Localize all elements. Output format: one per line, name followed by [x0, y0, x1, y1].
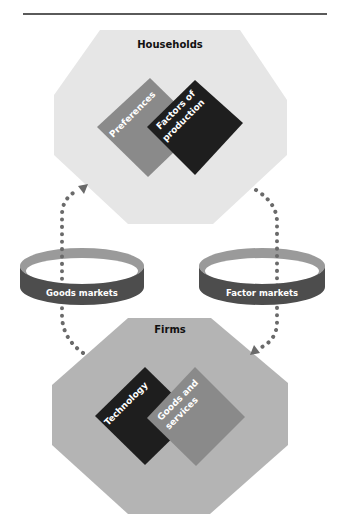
households-sector: Households Preferences Factors of produc… [54, 30, 287, 224]
factor-markets-label: Factor markets [226, 288, 298, 298]
arrowhead-up-icon [78, 184, 88, 194]
factor-markets-ring [199, 248, 325, 284]
goods-markets-ring [20, 248, 144, 284]
circular-flow-diagram: Households Preferences Factors of produc… [0, 0, 340, 525]
arrowhead-down-icon [250, 345, 260, 355]
firms-sector: Firms Technology Goods and services [52, 318, 288, 514]
households-title: Households [137, 39, 203, 50]
firms-title: Firms [154, 324, 186, 335]
goods-markets-label: Goods markets [46, 288, 118, 298]
